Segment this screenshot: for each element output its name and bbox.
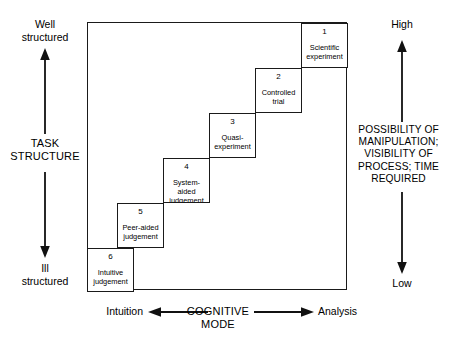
- step-label: Intuitive judgement: [92, 268, 129, 286]
- step-number: 1: [322, 27, 327, 37]
- y-axis-title: TASK STRUCTURE: [5, 137, 85, 163]
- x-axis-right-label: Analysis: [318, 305, 388, 318]
- step-number: 4: [184, 162, 189, 172]
- x-axis-left-label: Intuition: [83, 305, 143, 318]
- y-axis-top-label: Well structured: [10, 18, 80, 43]
- step-label: Quasi- experiment: [213, 133, 252, 151]
- y-axis-bottom-label: Ill structured: [10, 262, 80, 287]
- step-number: 6: [108, 252, 113, 262]
- step-box-4[interactable]: 4 System- aided judgement: [163, 158, 210, 203]
- right-axis-up-arrow: [390, 40, 414, 122]
- x-axis-right-arrow: [254, 302, 314, 322]
- step-box-6[interactable]: 6 Intuitive judgement: [87, 248, 134, 292]
- right-axis-top-label: High: [367, 18, 437, 31]
- step-label: Controlled trial: [261, 88, 297, 106]
- x-axis-title: COGNITIVE MODE: [183, 305, 253, 331]
- step-box-5[interactable]: 5 Peer-aided judgement: [117, 203, 164, 248]
- y-axis-down-arrow: [33, 172, 57, 258]
- step-number: 5: [138, 207, 143, 217]
- step-box-2[interactable]: 2 Controlled trial: [255, 68, 302, 113]
- right-axis-bottom-label: Low: [367, 277, 437, 290]
- step-label: Peer-aided judgement: [121, 223, 159, 241]
- step-box-1[interactable]: 1 Scientific experiment: [301, 23, 348, 68]
- y-axis-up-arrow: [33, 48, 57, 134]
- step-number: 3: [230, 117, 235, 127]
- diagram-canvas: Well structured TASK STRUCTURE Ill struc…: [0, 0, 450, 350]
- step-number: 2: [276, 72, 281, 82]
- plot-frame: 1 Scientific experiment 2 Controlled tri…: [87, 22, 347, 290]
- step-label: Scientific experiment: [305, 43, 344, 61]
- right-axis-down-arrow: [390, 192, 414, 274]
- right-axis-title: POSSIBILITY OF MANIPULATION; VISIBILITY …: [347, 124, 450, 185]
- step-label: System- aided judgement: [168, 178, 205, 203]
- step-box-3[interactable]: 3 Quasi- experiment: [209, 113, 256, 158]
